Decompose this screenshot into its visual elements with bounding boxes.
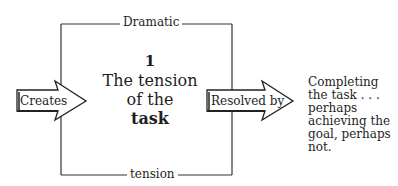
frame-bottom-label: tension — [127, 167, 178, 181]
center-line-1: The tension — [70, 71, 230, 90]
center-line-2: of the — [70, 90, 230, 109]
step-number: 1 — [70, 52, 230, 71]
creates-arrow-label: Creates — [20, 94, 67, 108]
frame-top-label: Dramatic — [120, 15, 182, 29]
center-block: 1 The tension of the task — [70, 52, 230, 128]
resolved-by-arrow-label: Resolved by — [211, 94, 284, 108]
center-line-3: task — [70, 109, 230, 128]
dramatic-tension-diagram: Dramatic tension 1 The tension of the ta… — [0, 0, 398, 186]
outcome-text: Completing the task . . . perhaps achiev… — [308, 76, 398, 154]
